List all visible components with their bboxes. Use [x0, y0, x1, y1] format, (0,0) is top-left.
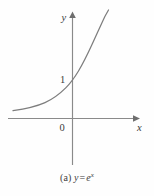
exponential-curve [13, 10, 109, 111]
y-tick-label-1: 1 [60, 74, 65, 85]
y-axis-arrow-icon [69, 12, 76, 19]
x-axis-arrow-icon [133, 115, 140, 122]
caption-exponent-x: x [91, 171, 94, 179]
caption-function-variable: y [74, 172, 79, 183]
plot-svg: y x 0 1 [0, 0, 154, 170]
plot-area: y x 0 1 [0, 0, 154, 170]
figure-caption: (a) y=ex [0, 172, 154, 183]
y-axis-label: y [61, 12, 67, 23]
x-axis-label: x [136, 122, 142, 133]
exponential-function-figure: y x 0 1 (a) y=ex [0, 0, 154, 196]
origin-label: 0 [60, 122, 65, 133]
caption-index: (a) [60, 172, 71, 183]
